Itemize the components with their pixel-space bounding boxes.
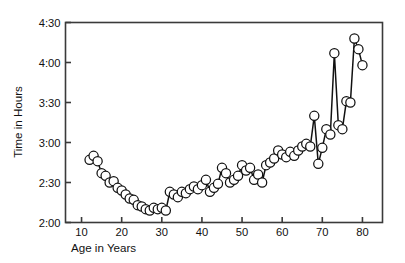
data-point [233,171,242,180]
y-tick-label: 4:00 [39,57,61,69]
x-tick-label: 50 [236,226,248,238]
data-point [310,111,319,120]
chart-figure: 2:002:303:003:304:004:30 102030405060708… [0,0,405,263]
line-chart: 2:002:303:003:304:004:30 102030405060708… [0,0,405,263]
data-point [221,169,230,178]
x-axis-title: Age in Years [71,241,136,254]
x-tick-label: 20 [115,226,127,238]
x-tick-label: 30 [156,226,168,238]
data-point [330,49,339,58]
data-point [306,142,315,151]
y-axis-title: Time in Hours [11,86,24,158]
x-tick-label: 40 [196,226,208,238]
x-tick-label: 10 [75,226,87,238]
data-point [346,98,355,107]
data-point [358,61,367,70]
y-tick-label: 3:00 [39,137,61,149]
x-tick-label: 80 [356,226,368,238]
data-point [93,157,102,166]
data-point [326,130,335,139]
data-point [201,175,210,184]
x-tick-label: 70 [316,226,328,238]
data-point [350,34,359,43]
data-point [354,45,363,54]
data-point [161,206,170,215]
data-point [258,178,267,187]
data-point [245,163,254,172]
data-point [338,125,347,134]
data-point [314,159,323,168]
x-tick-label: 60 [276,226,288,238]
y-tick-label: 2:00 [39,217,61,229]
data-point [213,179,222,188]
data-point [318,143,327,152]
y-tick-label: 3:30 [39,97,61,109]
y-tick-label: 4:30 [39,17,61,29]
y-tick-label: 2:30 [39,177,61,189]
